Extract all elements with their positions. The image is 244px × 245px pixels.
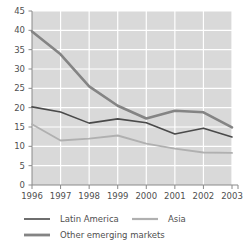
x-tick-label: 2000 [135, 191, 157, 201]
chart-legend: Latin AmericaAsiaOther emerging markets [24, 214, 186, 240]
x-tick-label: 2003 [221, 191, 243, 201]
x-axis-tick-labels: 19961997199819992000200120022003 [21, 191, 243, 201]
legend-label-other-emerging-markets: Other emerging markets [60, 230, 165, 240]
y-tick-label: 30 [14, 64, 25, 74]
line-chart-figure: 051015202530354045 199619971998199920002… [0, 0, 244, 245]
y-axis-tick-labels: 051015202530354045 [14, 6, 25, 190]
x-tick-label: 1999 [107, 191, 129, 201]
y-tick-label: 40 [14, 25, 25, 35]
y-tick-label: 0 [20, 180, 25, 190]
y-tick-label: 25 [14, 83, 25, 93]
plot-area-background [32, 11, 232, 185]
legend-label-latin-america: Latin America [60, 214, 119, 224]
legend-label-asia: Asia [168, 214, 186, 224]
y-axis [29, 11, 33, 185]
y-tick-label: 10 [14, 141, 25, 151]
x-tick-label: 1997 [50, 191, 72, 201]
chart-canvas: 051015202530354045 199619971998199920002… [0, 0, 244, 245]
y-tick-label: 20 [14, 103, 25, 113]
y-tick-label: 35 [14, 45, 25, 55]
x-tick-label: 1996 [21, 191, 43, 201]
x-tick-label: 1998 [78, 191, 100, 201]
y-tick-label: 45 [14, 6, 25, 16]
y-tick-label: 15 [14, 122, 25, 132]
x-tick-label: 2002 [193, 191, 215, 201]
x-axis [32, 185, 238, 189]
y-tick-label: 5 [20, 161, 25, 171]
x-tick-label: 2001 [164, 191, 186, 201]
